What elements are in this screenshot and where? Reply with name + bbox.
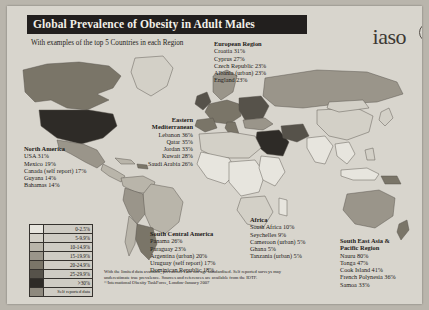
legend-swatch [30,225,44,233]
region-country: Albania (urban) 23% [214,69,266,76]
legend-row: 10-14.9% [30,243,92,252]
iaso-logo: iaso [373,24,406,50]
region-country: Czech Republic 23% [214,62,266,69]
region-title-europe: European Region [214,40,266,47]
region-block-eastern-mediterranean: Eastern Mediterranean Lebanon 36% Qatar … [148,116,193,167]
subtitle: With examples of the top 5 Countries in … [31,39,183,47]
region-country: Qatar 35% [148,138,193,145]
region-country: Canada (self report) 17% [24,167,86,174]
legend-row: 20-24.9% [30,261,92,270]
legend-label: 10-14.9% [44,243,92,251]
legend-label: 5-9.9% [44,234,92,242]
legend-label: >30% [44,279,92,287]
legend-swatch [30,270,44,278]
region-country: Cyprus 27% [214,55,266,62]
logo-ring-icon [419,23,422,42]
region-country: Nauru 80% [340,252,396,259]
region-country: Samoa 33% [340,281,396,288]
legend-label: 20-24.9% [44,261,92,269]
region-country: South Africa 10% [250,223,305,230]
legend-swatch [30,279,44,287]
region-block-north-america: North America USA 31% Mexico 19% Canada … [24,145,86,188]
page-title-text: Global Prevalence of Obesity in Adult Ma… [27,15,307,34]
page-title: Global Prevalence of Obesity in Adult Ma… [27,15,307,34]
legend-swatch [30,234,44,242]
legend-row: 15-19.9% [30,252,92,261]
region-country: Bahamas 14% [24,181,86,188]
region-country: Cook Island 41% [340,266,396,273]
region-country: Argentina (urban) 20% [150,252,215,259]
legend-label: 15-19.9% [44,252,92,260]
region-country: Mexico 19% [24,160,86,167]
legend-label: 25-29.9% [44,270,92,278]
region-title-south-east-asia: South East Asia & [340,237,396,244]
region-block-south-east-asia-pacific: South East Asia & Pacific Region Nauru 8… [340,237,396,288]
legend-row: >30% [30,279,92,288]
legend-label: 0-2.5% [44,225,92,233]
region-country: Saudi Arabia 26% [148,160,193,167]
region-country: Ghana 5% [250,245,305,252]
legend-label: Self reported data [44,288,92,296]
region-country: Paraguay 23% [150,245,215,252]
region-title-north-america: North America [24,145,86,152]
region-block-south-central-america: South Central America Panama 26% Paragua… [150,230,215,273]
region-country: England 23% [214,76,266,83]
poster: Global Prevalence of Obesity in Adult Ma… [7,6,422,304]
region-title-eastern-mediterranean-line2: Mediterranean [148,123,193,130]
legend-swatch [30,252,44,260]
region-country: French Polynesia 36% [340,273,396,280]
region-title-eastern-mediterranean: Eastern [148,116,193,123]
region-country: Jordan 33% [148,145,193,152]
legend-swatch [30,261,44,269]
region-block-africa: Africa South Africa 10% Seychelles 9% Ca… [250,216,305,259]
legend-swatch-self-reported [30,288,44,296]
region-country: Tanzania (urban) 5% [250,252,305,259]
country-hispaniola [137,164,148,169]
region-country: Uruguay (self report) 17% [150,259,215,266]
legend-swatch [30,243,44,251]
region-title-south-central-america: South Central America [150,230,215,237]
country-philippines [365,148,375,160]
region-country: Tonga 47% [340,259,396,266]
legend-row: 5-9.9% [30,234,92,243]
legend-row-self-reported: Self reported data [30,288,92,296]
region-title-south-east-asia-line2: Pacific Region [340,244,396,251]
legend-row: 25-29.9% [30,270,92,279]
region-country: Cameroon (urban) 5% [250,238,305,245]
region-block-europe: European Region Croatia 31% Cyprus 27% C… [214,40,266,83]
region-country: Seychelles 9% [250,231,305,238]
region-country: Lebanon 36% [148,131,193,138]
region-title-africa: Africa [250,216,305,223]
region-country: Guyana 14% [24,174,86,181]
legend-row: 0-2.5% [30,225,92,234]
region-country: USA 31% [24,152,86,159]
region-country: Panama 26% [150,237,215,244]
country-madagascar [279,198,287,216]
region-country: Croatia 31% [214,47,266,54]
region-country: Kuwait 28% [148,152,193,159]
footnote: With the limited data available, prevale… [104,269,314,286]
map-legend: 0-2.5% 5-9.9% 10-14.9% 15-19.9% 20-24.9%… [29,224,93,297]
iaso-logo-text: iaso [373,24,406,49]
footnote-line: ©International Obesity TaskForce, London… [104,280,314,286]
